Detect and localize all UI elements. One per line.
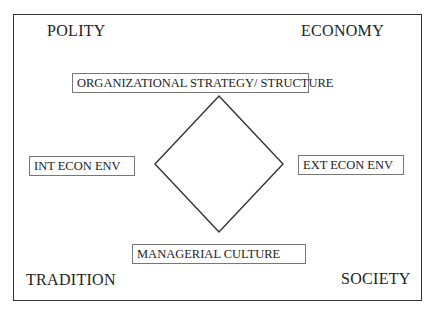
box-ext-econ-env: EXT ECON ENV <box>298 155 404 175</box>
box-managerial-culture: MANAGERIAL CULTURE <box>132 244 306 264</box>
label-economy: ECONOMY <box>301 22 384 40</box>
box-int-econ-env: INT ECON ENV <box>29 156 135 176</box>
label-society: SOCIETY <box>341 270 411 288</box>
label-polity: POLITY <box>47 22 106 40</box>
box-organizational-strategy-structure: ORGANIZATIONAL STRATEGY/ STRUCTURE <box>72 73 309 93</box>
label-tradition: TRADITION <box>26 271 116 289</box>
